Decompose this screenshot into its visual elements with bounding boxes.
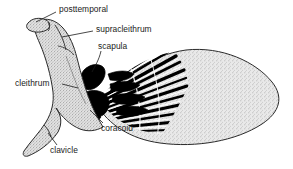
label-posttemporal: posttemporal — [59, 5, 108, 13]
label-supracleithrum: supracleithrum — [96, 25, 152, 33]
figure-canvas: posttemporal supracleithrum scapula clei… — [0, 0, 293, 169]
label-cleithrum: cleithrum — [15, 79, 49, 87]
label-scapula: scapula — [98, 42, 127, 50]
label-clavicle: clavicle — [50, 146, 78, 154]
label-coracoid: coracoid — [101, 124, 133, 132]
